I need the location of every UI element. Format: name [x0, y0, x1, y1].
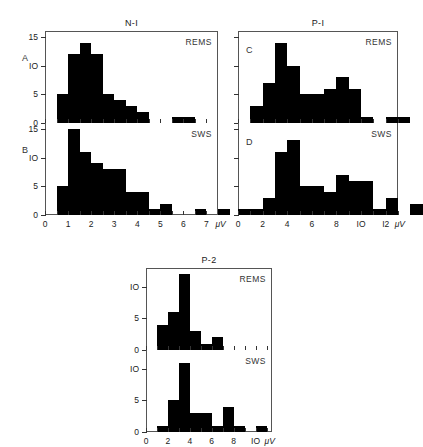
y-axis-tick — [41, 186, 46, 187]
histogram-bar — [373, 209, 385, 215]
histogram-bar — [126, 106, 138, 123]
x-axis-tick — [126, 211, 127, 215]
x-axis-tick — [206, 211, 207, 215]
histogram-panel-p-2-rems: 05IOREMS — [146, 268, 272, 350]
y-axis-tick-label: IO — [130, 282, 139, 292]
x-axis-tick-label: IO — [357, 219, 366, 229]
x-axis-tick-label: 0 — [144, 436, 149, 446]
x-axis-tick — [103, 211, 104, 215]
x-axis-tick-label: 5 — [158, 219, 163, 229]
histogram-bar — [349, 89, 361, 124]
x-axis-tick-label: 8 — [231, 436, 236, 446]
x-axis-tick — [168, 428, 169, 432]
x-axis-tick-label: 7 — [204, 219, 209, 229]
y-axis-tick — [142, 400, 147, 401]
panel-letter-a: A — [22, 53, 28, 63]
histogram-bar — [160, 204, 172, 216]
histogram-bar — [398, 117, 410, 123]
sleep-state-label-rems: REMS — [365, 37, 392, 47]
x-axis-tick — [172, 211, 173, 215]
histogram-bar — [361, 181, 373, 216]
histogram-bar — [91, 54, 103, 123]
x-axis-tick-label: 4 — [285, 219, 290, 229]
y-axis-tick — [142, 369, 147, 370]
x-axis-tick-label: 2 — [89, 219, 94, 229]
y-axis-tick — [234, 66, 239, 67]
y-axis-tick — [234, 94, 239, 95]
histogram-bar — [57, 186, 69, 215]
histogram-bar — [91, 163, 103, 215]
histogram-bar — [250, 209, 262, 215]
histogram-bar — [126, 192, 138, 215]
x-axis-unit-label: μV — [395, 219, 405, 229]
histogram-bar — [287, 140, 299, 215]
x-axis-tick — [398, 119, 399, 123]
x-axis-tick — [256, 428, 257, 432]
x-axis-tick-label: 0 — [236, 219, 241, 229]
y-axis-tick-label: IO — [29, 61, 38, 71]
histogram-panel-p-1-sws: 05IO15SWSD — [238, 123, 398, 215]
histogram-bar — [114, 100, 126, 123]
sleep-state-label-rems: REMS — [185, 37, 212, 47]
x-axis-tick-label: 6 — [209, 436, 214, 446]
x-axis-tick — [137, 211, 138, 215]
x-axis-tick — [361, 211, 362, 215]
x-axis-tick — [223, 428, 224, 432]
y-axis-tick-label: 0 — [33, 210, 38, 220]
histogram-bar — [68, 54, 80, 123]
x-axis-tick — [80, 211, 81, 215]
x-axis-tick-label: 0 — [43, 219, 48, 229]
histogram-bar — [114, 169, 126, 215]
x-axis-tick-label: 2 — [260, 219, 265, 229]
sleep-state-label-sws: SWS — [191, 129, 212, 139]
y-axis-tick — [41, 94, 46, 95]
histogram-bar — [386, 198, 398, 215]
panel-letter-c: C — [246, 45, 253, 55]
y-axis-tick — [41, 66, 46, 67]
x-axis-tick — [238, 211, 239, 215]
x-axis-tick — [324, 211, 325, 215]
y-axis-tick — [142, 432, 147, 433]
histogram-bar — [312, 94, 324, 123]
panel-group-p-1: P-I05IO15REMSC05IO15SWSD02468IOI2μV — [238, 18, 398, 241]
group-title-p-1: P-I — [238, 18, 398, 28]
y-axis-tick-label: 5 — [134, 395, 139, 405]
histogram-bar — [68, 129, 80, 215]
x-axis-tick — [275, 211, 276, 215]
group-title-n-1: N-I — [45, 18, 218, 28]
x-axis-tick — [91, 211, 92, 215]
y-axis-tick — [41, 215, 46, 216]
sleep-state-label-sws: SWS — [371, 129, 392, 139]
histogram-bar — [250, 106, 262, 123]
y-axis-tick-label: 5 — [33, 181, 38, 191]
x-axis-tick — [146, 428, 147, 432]
x-axis-tick — [149, 211, 150, 215]
x-axis-tick-label: 6 — [181, 219, 186, 229]
x-axis-tick — [245, 428, 246, 432]
histogram-bar — [137, 192, 149, 215]
histogram-panel-n-1-sws: 05IO15SWSB — [45, 123, 218, 215]
histogram-bar — [336, 77, 348, 123]
y-axis-tick-label: 5 — [33, 89, 38, 99]
y-axis-tick — [234, 37, 239, 38]
y-axis-tick-label: 15 — [29, 124, 38, 134]
x-axis-tick — [157, 428, 158, 432]
histogram-bar — [263, 198, 275, 215]
panel-letter-d: D — [246, 137, 253, 147]
x-axis-tick — [114, 211, 115, 215]
x-axis-tick — [183, 211, 184, 215]
x-axis-tick-label: IO — [251, 436, 260, 446]
histogram-bar — [80, 152, 92, 215]
histogram-panel-p-2-sws: 05IOSWS — [146, 350, 272, 432]
x-axis-tick — [287, 211, 288, 215]
y-axis-tick — [41, 129, 46, 130]
x-axis-tick — [212, 428, 213, 432]
x-axis-tick-label: 1 — [66, 219, 71, 229]
x-axis-tick — [349, 211, 350, 215]
y-axis-tick — [234, 215, 239, 216]
x-axis-tick-label: 2 — [166, 436, 171, 446]
x-axis-tick — [179, 428, 180, 432]
x-axis-tick — [234, 428, 235, 432]
x-axis-tick — [201, 428, 202, 432]
histogram-bar — [137, 112, 149, 124]
